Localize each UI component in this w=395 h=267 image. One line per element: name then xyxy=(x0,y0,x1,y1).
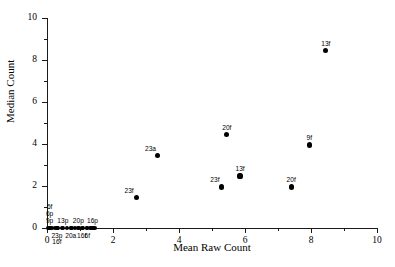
point-label: 20f xyxy=(222,125,231,132)
x-minor-tick-7 xyxy=(278,228,279,231)
point-label: 9f xyxy=(307,135,313,142)
y-tick-8 xyxy=(42,60,47,61)
data-point xyxy=(61,226,65,230)
data-point xyxy=(155,153,160,158)
y-tick-label-10: 10 xyxy=(28,13,38,23)
y-axis-line xyxy=(47,18,48,228)
y-tick-10 xyxy=(42,18,47,19)
point-label: 13f xyxy=(235,166,244,173)
y-minor-tick-3 xyxy=(44,165,47,166)
data-point xyxy=(289,184,294,189)
x-tick-8 xyxy=(311,228,312,233)
x-minor-tick-5 xyxy=(212,228,213,231)
data-point xyxy=(224,132,229,137)
data-point xyxy=(219,184,224,189)
x-axis-title: Mean Raw Count xyxy=(47,241,377,253)
x-minor-tick-9 xyxy=(344,228,345,231)
x-tick-2 xyxy=(113,228,114,233)
x-minor-tick-3 xyxy=(146,228,147,231)
y-tick-label-6: 6 xyxy=(32,97,37,107)
y-tick-label-0: 0 xyxy=(32,223,37,233)
point-label: 13p xyxy=(57,218,68,225)
x-tick-10 xyxy=(377,228,378,233)
point-label: 6p xyxy=(46,211,53,218)
y-tick-label-8: 8 xyxy=(32,55,37,65)
point-label: 20f xyxy=(287,177,296,184)
x-tick-4 xyxy=(179,228,180,233)
y-tick-label-2: 2 xyxy=(32,181,37,191)
data-point xyxy=(69,226,73,230)
point-label: 23f xyxy=(210,177,219,184)
scatter-plot-figure: 0246810 0246810 13f20f9f23a13f23f20f23f9… xyxy=(0,0,395,267)
data-point xyxy=(55,226,59,230)
point-label: 20p xyxy=(73,218,84,225)
data-point xyxy=(80,226,84,230)
y-minor-tick-9 xyxy=(44,39,47,40)
data-point xyxy=(48,226,52,230)
data-point xyxy=(307,142,312,147)
point-label: 6f xyxy=(47,204,53,211)
point-label: 6f xyxy=(85,233,91,240)
y-tick-2 xyxy=(42,186,47,187)
y-axis-title: Median Count xyxy=(4,60,16,123)
data-point xyxy=(237,173,242,178)
point-label: 20a xyxy=(65,233,76,240)
x-tick-6 xyxy=(245,228,246,233)
y-minor-tick-5 xyxy=(44,123,47,124)
point-label: 23f xyxy=(125,188,134,195)
point-label: 9p xyxy=(46,218,53,225)
data-point xyxy=(90,226,94,230)
point-label: 16p xyxy=(87,218,98,225)
y-tick-6 xyxy=(42,102,47,103)
point-label: 13f xyxy=(321,41,330,48)
y-tick-4 xyxy=(42,144,47,145)
plot-area: 0246810 0246810 13f20f9f23a13f23f20f23f9… xyxy=(47,18,377,228)
point-label: 23a xyxy=(145,146,156,153)
data-point xyxy=(134,195,139,200)
y-minor-tick-7 xyxy=(44,81,47,82)
y-tick-label-4: 4 xyxy=(32,139,37,149)
data-point xyxy=(323,48,328,53)
